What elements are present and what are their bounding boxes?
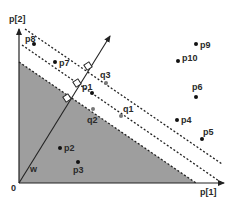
projection-marker-middle	[73, 79, 81, 87]
point-label: p8	[25, 34, 36, 44]
point-label: p1	[82, 82, 93, 92]
point-label: p10	[182, 53, 198, 63]
point-label: p9	[200, 40, 211, 50]
point-p7: p7	[53, 58, 70, 68]
point-p1: p1	[82, 82, 94, 95]
point-label: p5	[203, 127, 214, 137]
y-axis-label: p[2]	[9, 14, 26, 24]
point-p10: p10	[176, 53, 198, 63]
point-q1: q1	[119, 104, 134, 118]
point-p6: p6	[192, 82, 203, 99]
diagram-canvas: p1 p2 p3 p4 p5 p6 p7 p8 p9 p10 q1	[0, 0, 235, 205]
point-q3: q3	[100, 70, 111, 85]
projection-marker-outer	[84, 62, 92, 70]
point-label: q2	[87, 115, 98, 125]
point-label: p3	[73, 165, 84, 175]
x-axis-label: p[1]	[200, 187, 217, 197]
point-label: p6	[192, 82, 203, 92]
point-label: q1	[123, 104, 134, 114]
point-label: p4	[181, 115, 192, 125]
point-p5: p5	[200, 127, 214, 141]
point-label: p2	[64, 143, 75, 153]
origin-label: 0	[11, 183, 16, 193]
point-p8: p8	[25, 34, 36, 46]
point-p9: p9	[194, 40, 211, 50]
point-label: q3	[100, 70, 111, 80]
point-p4: p4	[175, 115, 192, 125]
point-label: p7	[59, 58, 70, 68]
w-vector-label: w	[29, 164, 38, 174]
